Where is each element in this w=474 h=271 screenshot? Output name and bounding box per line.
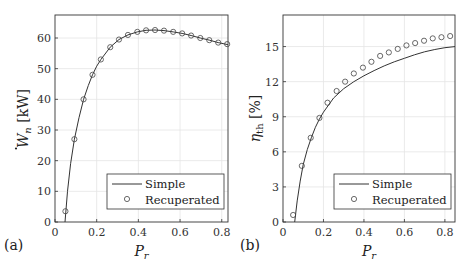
- y-tick-label: 60: [37, 32, 51, 45]
- panel-tag: (b): [240, 237, 260, 253]
- x-tick-label: 0: [280, 226, 287, 239]
- chart-panel-b: 00.20.40.60.803691215SimpleRecuperatedPr…: [240, 15, 455, 261]
- y-tick-label: 3: [272, 181, 279, 194]
- y-tick-label: 15: [265, 41, 279, 54]
- legend-label-simple: Simple: [372, 177, 413, 191]
- x-tick-label: 0.4: [355, 226, 373, 239]
- y-tick-label: 10: [37, 185, 51, 198]
- x-tick-label: 0.2: [315, 226, 333, 239]
- panel-tag: (a): [4, 237, 23, 253]
- legend-label-recuperated: Recuperated: [372, 193, 447, 207]
- y-tick-label: 20: [37, 155, 51, 168]
- legend: SimpleRecuperated: [107, 174, 224, 209]
- y-axis-label: Wn [kW]: [15, 89, 33, 148]
- chart-panel-a: 00.20.40.60.80102030405060SimpleRecupera…: [4, 15, 230, 261]
- y-tick-label: 50: [37, 63, 51, 76]
- dot-accent: [15, 147, 17, 149]
- x-tick-label: 0.6: [171, 226, 189, 239]
- legend-label-simple: Simple: [145, 177, 186, 191]
- y-tick-label: 12: [265, 76, 279, 89]
- y-tick-label: 0: [44, 216, 51, 229]
- x-axis-label: Pr: [133, 243, 149, 261]
- y-axis-label: ηth [%]: [247, 95, 265, 143]
- y-tick-label: 40: [37, 93, 51, 106]
- y-tick-label: 9: [272, 111, 279, 124]
- y-tick-label: 30: [37, 124, 51, 137]
- y-tick-label: 6: [272, 146, 279, 159]
- x-tick-label: 0.6: [396, 226, 414, 239]
- x-tick-label: 0.8: [213, 226, 231, 239]
- x-tick-label: 0.2: [88, 226, 106, 239]
- figure: 00.20.40.60.80102030405060SimpleRecupera…: [0, 0, 474, 271]
- legend: SimpleRecuperated: [334, 174, 451, 209]
- x-axis-label: Pr: [361, 243, 377, 261]
- legend-label-recuperated: Recuperated: [145, 193, 220, 207]
- y-tick-label: 0: [272, 216, 279, 229]
- x-tick-label: 0: [52, 226, 59, 239]
- x-tick-label: 0.8: [436, 226, 454, 239]
- x-tick-label: 0.4: [130, 226, 148, 239]
